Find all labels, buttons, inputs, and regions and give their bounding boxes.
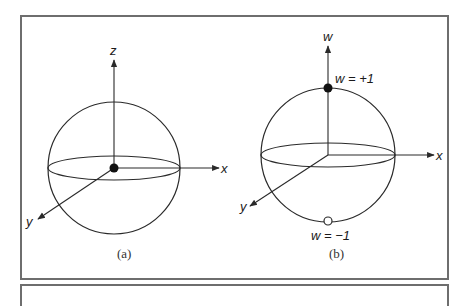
x-label-a: x xyxy=(220,161,228,176)
north-pole-label: w = +1 xyxy=(335,71,374,86)
caption-a: (a) xyxy=(117,246,131,261)
caption-b: (b) xyxy=(329,246,344,261)
y-label-a: y xyxy=(25,214,34,229)
south-pole-point xyxy=(324,217,332,225)
panel-b: w x y w = +1 w = −1 (b) xyxy=(239,29,443,261)
z-label-a: z xyxy=(109,43,117,58)
x-label-b: x xyxy=(435,148,443,163)
north-pole-point xyxy=(324,84,333,93)
w-label-b: w xyxy=(323,29,334,44)
panel-a: z x y (a) xyxy=(25,43,228,261)
y-axis-a xyxy=(38,168,114,219)
origin-point-a xyxy=(110,164,119,173)
south-pole-label: w = −1 xyxy=(311,228,350,243)
y-label-b: y xyxy=(239,199,248,214)
